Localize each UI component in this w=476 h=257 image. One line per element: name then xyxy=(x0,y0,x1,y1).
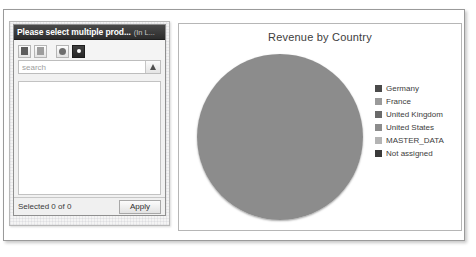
dialog-title: Please select multiple prod... xyxy=(17,27,131,37)
dropdown-toggle-button[interactable] xyxy=(72,45,85,58)
legend-swatch xyxy=(375,111,382,118)
legend-swatch xyxy=(375,150,382,157)
legend-item[interactable]: MASTER_DATA xyxy=(375,134,461,147)
chart-panel: Revenue by Country GermanyFranceUnited K… xyxy=(178,23,462,231)
legend-swatch xyxy=(375,137,382,144)
dialog-titlebar: Please select multiple prod... (In L... xyxy=(14,25,165,40)
search-button[interactable] xyxy=(145,61,160,73)
options-button[interactable] xyxy=(56,45,69,58)
legend-item[interactable]: United States xyxy=(375,121,461,134)
dialog-footer: Selected 0 of 0 Apply xyxy=(14,197,165,215)
legend-item[interactable]: United Kingdom xyxy=(375,108,461,121)
search-row xyxy=(18,60,161,74)
chevron-down-icon xyxy=(77,49,81,53)
legend-label: Not assigned xyxy=(386,149,433,158)
product-list[interactable] xyxy=(18,81,161,195)
legend-swatch xyxy=(375,98,382,105)
apply-button[interactable]: Apply xyxy=(119,200,161,214)
selected-count-label: Selected 0 of 0 xyxy=(18,202,119,211)
legend-label: MASTER_DATA xyxy=(386,136,444,145)
chart-title: Revenue by Country xyxy=(179,31,461,43)
search-icon xyxy=(150,64,156,70)
legend-label: United States xyxy=(386,123,434,132)
legend-item[interactable]: Germany xyxy=(375,82,461,95)
dialog-toolbar xyxy=(14,40,165,60)
legend-item[interactable]: Not assigned xyxy=(375,147,461,160)
dialog-title-suffix: (In L... xyxy=(134,28,155,37)
pie-chart xyxy=(197,54,363,220)
legend-swatch xyxy=(375,85,382,92)
pie-slices xyxy=(197,54,363,220)
legend-label: France xyxy=(386,97,411,106)
deselect-all-icon xyxy=(37,47,44,55)
select-products-dialog: Please select multiple prod... (In L... xyxy=(13,24,166,216)
search-input[interactable] xyxy=(19,61,145,73)
screen: Please select multiple prod... (In L... xyxy=(0,0,476,257)
legend-swatch xyxy=(375,124,382,131)
legend-label: Germany xyxy=(386,84,419,93)
product-picker-panel: Please select multiple prod... (In L... xyxy=(9,21,170,226)
outer-frame: Please select multiple prod... (In L... xyxy=(3,9,465,241)
legend-label: United Kingdom xyxy=(386,110,443,119)
select-all-icon xyxy=(21,47,28,55)
legend-item[interactable]: France xyxy=(375,95,461,108)
select-all-button[interactable] xyxy=(18,45,31,58)
chart-legend: GermanyFranceUnited KingdomUnited States… xyxy=(375,82,461,160)
bullet-icon xyxy=(59,48,66,55)
deselect-all-button[interactable] xyxy=(34,45,47,58)
